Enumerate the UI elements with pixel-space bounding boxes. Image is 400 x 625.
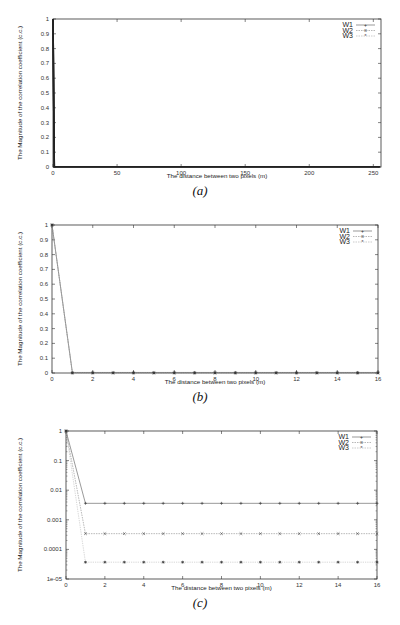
x-axis-label: The distance between two pixels (m) <box>171 584 271 591</box>
x-axis: 050100150200250 <box>51 19 379 176</box>
y-tick-label: 0.6 <box>40 281 49 287</box>
subfigure-caption: (a) <box>192 183 207 198</box>
x-axis: 0246810121416 <box>64 431 381 588</box>
plot-frame <box>66 431 377 579</box>
x-tick-label: 12 <box>296 582 303 588</box>
y-tick-label: 0.2 <box>40 340 49 346</box>
plot-frame <box>52 225 378 373</box>
x-tick-label: 14 <box>335 582 342 588</box>
y-tick-label: 0.1 <box>40 355 49 361</box>
y-tick-label: 1e-05 <box>47 576 63 582</box>
x-tick-label: 0 <box>64 582 68 588</box>
series-W1 <box>52 225 378 372</box>
y-tick-label: 1 <box>46 16 50 22</box>
y-axis: 1e-050.00010.0010.010.11 <box>44 428 377 582</box>
y-tick-label: 0.5 <box>40 296 49 302</box>
y-axis: 00.10.20.30.40.50.60.70.80.91 <box>41 16 381 170</box>
chart-c: 1e-050.00010.0010.010.110246810121416The… <box>16 428 381 610</box>
y-axis-label: The Magnitude of the correlation coeffic… <box>16 438 23 572</box>
x-tick-label: 4 <box>142 582 146 588</box>
y-tick-label: 0.1 <box>41 149 50 155</box>
y-tick-label: 0.8 <box>40 252 49 258</box>
subfigure-caption: (b) <box>192 389 207 404</box>
x-tick-label: 2 <box>103 582 107 588</box>
y-tick-label: 0.001 <box>47 517 63 523</box>
y-tick-label: 0.9 <box>40 237 49 243</box>
legend-marker-icon: * <box>362 239 364 245</box>
y-axis: 00.10.20.30.40.50.60.70.80.91 <box>40 222 378 376</box>
x-tick-label: 2 <box>91 376 95 382</box>
y-tick-label: 0.01 <box>50 487 62 493</box>
series-group <box>65 430 379 564</box>
y-axis-label: The Magnitude of the correlation coeffic… <box>16 26 23 160</box>
series-W2 <box>53 19 380 167</box>
y-tick-label: 0.9 <box>41 31 50 37</box>
series-W2 <box>52 225 378 373</box>
y-tick-label: 0.8 <box>41 46 50 52</box>
chart-b: 00.10.20.30.40.50.60.70.80.9102468101214… <box>16 222 382 404</box>
y-tick-label: 1 <box>45 222 49 228</box>
legend-marker-icon: * <box>365 33 367 39</box>
series-group <box>53 19 380 167</box>
legend: W1+W2xW3* <box>340 227 373 245</box>
y-tick-label: 0 <box>46 164 50 170</box>
y-tick-label: 1 <box>59 428 63 434</box>
y-tick-label: 0.3 <box>41 120 50 126</box>
y-tick-label: 0.1 <box>54 458 63 464</box>
legend-label-W3: W3 <box>343 32 354 39</box>
legend: W1+W2xW3* <box>343 21 376 39</box>
y-tick-label: 0.2 <box>41 134 50 140</box>
series-W3 <box>52 225 378 373</box>
x-tick-label: 200 <box>304 170 315 176</box>
x-tick-label: 0 <box>50 376 54 382</box>
legend-marker-icon: * <box>361 445 363 451</box>
x-axis: 0246810121416 <box>50 225 382 382</box>
y-tick-label: 0.6 <box>41 75 50 81</box>
y-tick-label: 0.4 <box>40 311 49 317</box>
chart-a: 00.10.20.30.40.50.60.70.80.9105010015020… <box>16 16 381 198</box>
y-tick-label: 0.7 <box>41 60 50 66</box>
y-axis-label: The Magnitude of the correlation coeffic… <box>16 232 23 366</box>
x-tick-label: 16 <box>375 376 382 382</box>
y-tick-label: 0.7 <box>40 266 49 272</box>
x-tick-label: 0 <box>51 170 55 176</box>
legend: W1+W2xW3* <box>339 433 372 451</box>
y-tick-label: 0 <box>45 370 49 376</box>
y-tick-label: 0.3 <box>40 326 49 332</box>
series-W1 <box>53 19 380 167</box>
figure-canvas: 00.10.20.30.40.50.60.70.80.9105010015020… <box>0 0 400 625</box>
series-group <box>51 224 380 375</box>
series-W1 <box>66 431 377 503</box>
x-tick-label: 12 <box>293 376 300 382</box>
legend-label-W3: W3 <box>339 444 350 451</box>
x-tick-label: 14 <box>334 376 341 382</box>
x-axis-label: The distance between two pixels (m) <box>167 172 267 179</box>
legend-label-W3: W3 <box>340 238 351 245</box>
plot-frame <box>53 19 381 167</box>
x-tick-label: 250 <box>368 170 379 176</box>
x-tick-label: 16 <box>374 582 381 588</box>
x-axis-label: The distance between two pixels (m) <box>165 378 265 385</box>
y-tick-label: 0.4 <box>41 105 50 111</box>
series-W3 <box>66 431 377 562</box>
x-tick-label: 50 <box>114 170 121 176</box>
y-tick-label: 0.5 <box>41 90 50 96</box>
x-tick-label: 4 <box>132 376 136 382</box>
subfigure-caption: (c) <box>193 595 207 610</box>
series-W2 <box>66 431 377 534</box>
series-W3 <box>53 19 380 167</box>
y-tick-label: 0.0001 <box>44 546 63 552</box>
